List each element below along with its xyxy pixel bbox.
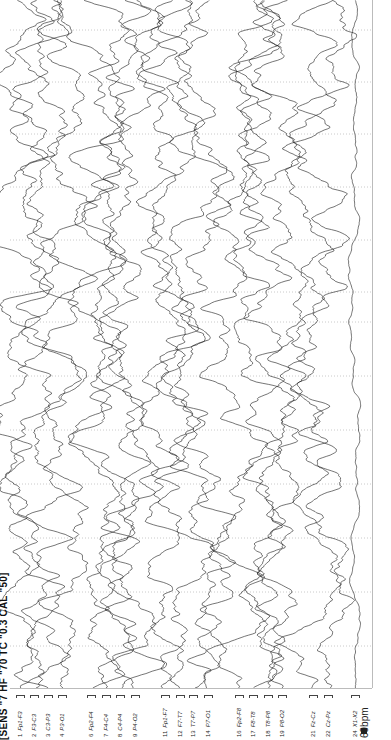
channel-label[interactable]: 24X1-X2 bbox=[352, 711, 359, 737]
channel-number: 13 bbox=[190, 730, 196, 737]
channel-derivation: F3-C3 bbox=[31, 714, 37, 731]
channel-derivation: T7-P7 bbox=[190, 711, 196, 727]
montage-settings-header: [SENS "7 HF "70 TC "0.3 CAL "50] bbox=[0, 573, 9, 740]
channel-trace-3 bbox=[9, 0, 83, 688]
channel-number: 12 bbox=[177, 730, 183, 737]
calibration-bar bbox=[204, 695, 213, 698]
channel-derivation: Cz-Pz bbox=[325, 711, 331, 727]
channel-label[interactable]: 14P7-O1 bbox=[205, 710, 212, 737]
channel-number: 21 bbox=[310, 730, 316, 737]
channel-number: 22 bbox=[325, 730, 331, 737]
channel-label[interactable]: 3C3-P3 bbox=[45, 714, 52, 737]
channel-label[interactable]: 6Fp2-F4 bbox=[88, 711, 95, 737]
channel-label[interactable]: 2F3-C3 bbox=[31, 714, 38, 737]
channel-trace-6 bbox=[58, 0, 139, 688]
channel-label[interactable]: 8C4-P4 bbox=[117, 714, 124, 737]
channel-trace-8 bbox=[69, 0, 167, 688]
channel-derivation: F8-T8 bbox=[250, 711, 256, 727]
channel-derivation: C4-P4 bbox=[117, 714, 123, 731]
channel-number: 1 bbox=[17, 734, 23, 737]
calibration-bar bbox=[161, 695, 170, 698]
calibration-bar bbox=[58, 695, 67, 698]
calibration-bar bbox=[309, 695, 318, 698]
channel-derivation: Fp1-F3 bbox=[17, 711, 23, 730]
channel-derivation: Fz-Cz bbox=[310, 711, 316, 727]
channel-trace-22 bbox=[283, 0, 357, 688]
channel-label[interactable]: 21Fz-Cz bbox=[310, 711, 317, 737]
channel-label[interactable]: 19P8-O2 bbox=[279, 710, 286, 737]
channel-number: 6 bbox=[88, 734, 94, 737]
channel-label[interactable]: 13T7-P7 bbox=[190, 711, 197, 737]
channel-derivation: P7-O1 bbox=[205, 710, 211, 727]
channel-derivation: Fp2-F8 bbox=[236, 708, 242, 727]
calibration-bar bbox=[16, 695, 25, 698]
channel-trace-7 bbox=[68, 0, 140, 688]
channel-label[interactable]: 12F7-T7 bbox=[177, 711, 184, 737]
channel-derivation: F4-C4 bbox=[103, 714, 109, 731]
calibration-bar bbox=[278, 695, 287, 698]
calibration-bar bbox=[87, 695, 96, 698]
channel-number: 2 bbox=[31, 734, 37, 737]
channel-trace-21 bbox=[274, 0, 347, 688]
channel-number: 4 bbox=[59, 734, 65, 737]
calibration-bar bbox=[102, 695, 111, 698]
channel-trace-19 bbox=[252, 0, 308, 688]
channel-trace-16 bbox=[200, 0, 274, 688]
channel-trace-17 bbox=[214, 0, 291, 688]
channel-number: 24 bbox=[352, 730, 358, 737]
calibration-bar bbox=[30, 695, 39, 698]
channel-derivation: P8-O2 bbox=[279, 710, 285, 727]
calibration-bar bbox=[131, 695, 140, 698]
channel-label[interactable]: 7F4-C4 bbox=[103, 714, 110, 737]
channel-number: 19 bbox=[279, 730, 285, 737]
channel-number: 11 bbox=[162, 731, 168, 737]
calibration-bar bbox=[351, 695, 360, 698]
channel-number: 16 bbox=[236, 730, 242, 737]
channel-derivation: F7-T7 bbox=[177, 711, 183, 727]
channel-trace-24 bbox=[348, 0, 361, 688]
calibration-bar bbox=[235, 695, 244, 698]
channel-trace-12 bbox=[136, 0, 214, 688]
channel-label[interactable]: 18T8-P8 bbox=[265, 711, 272, 737]
channel-label[interactable]: 4P3-O1 bbox=[59, 713, 66, 737]
calibration-bar bbox=[249, 695, 258, 698]
channel-label[interactable]: 22Cz-Pz bbox=[325, 711, 332, 737]
channel-label[interactable]: 16Fp2-F8 bbox=[236, 708, 243, 737]
channel-derivation: X1-X2 bbox=[352, 711, 358, 728]
channel-derivation: Fp2-F4 bbox=[88, 711, 94, 730]
calibration-bar bbox=[189, 695, 198, 698]
calibration-bar bbox=[324, 695, 333, 698]
channel-derivation: C3-P3 bbox=[45, 714, 51, 731]
channel-derivation: T8-P8 bbox=[265, 711, 271, 727]
channel-trace-14 bbox=[142, 0, 236, 688]
channel-trace-4 bbox=[21, 0, 97, 688]
channel-number: 18 bbox=[265, 730, 271, 737]
calibration-bar bbox=[116, 695, 125, 698]
channel-number: 8 bbox=[117, 734, 123, 737]
eeg-trace-canvas bbox=[0, 0, 391, 740]
channel-number: 9 bbox=[132, 734, 138, 737]
channel-trace-13 bbox=[155, 0, 236, 688]
channel-label[interactable]: 17F8-T8 bbox=[250, 711, 257, 737]
channel-number: 7 bbox=[103, 734, 109, 737]
channel-trace-9 bbox=[94, 0, 166, 688]
channel-derivation: Fp1-F7 bbox=[162, 708, 168, 727]
calibration-bar bbox=[176, 695, 185, 698]
channel-number: 17 bbox=[250, 730, 256, 737]
calibration-bar bbox=[264, 695, 273, 698]
calibration-bar bbox=[44, 695, 53, 698]
trace-area-border bbox=[372, 0, 373, 688]
channel-derivation: P3-O1 bbox=[59, 713, 65, 730]
channel-trace-2 bbox=[0, 0, 75, 688]
channel-number: 14 bbox=[205, 730, 211, 737]
eeg-traces bbox=[0, 0, 361, 688]
event-marker-icon[interactable] bbox=[361, 728, 367, 734]
channel-label[interactable]: 11Fp1-F7 bbox=[162, 708, 169, 737]
channel-label[interactable]: 1Fp1-F3 bbox=[17, 711, 24, 737]
channel-derivation: P4-O2 bbox=[132, 713, 138, 730]
channel-label[interactable]: 9P4-O2 bbox=[132, 713, 139, 737]
channel-number: 3 bbox=[45, 734, 51, 737]
